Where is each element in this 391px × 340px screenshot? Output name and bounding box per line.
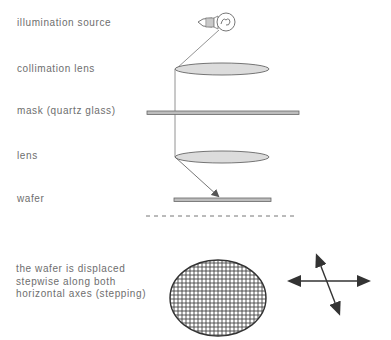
lens-shape [175,151,269,163]
lithography-diagram [0,0,391,340]
light-bulb-icon [198,13,235,31]
mask-plate [147,111,299,115]
stepping-axes-arrows-icon [290,256,368,313]
wafer-grid-icon [170,260,266,336]
collimation-lens-shape [175,63,269,75]
wafer-plate [174,198,271,202]
